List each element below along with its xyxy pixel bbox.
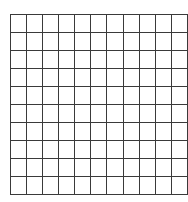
grid-cell[interactable]	[123, 15, 139, 33]
grid-cell[interactable]	[123, 141, 139, 159]
grid-cell[interactable]	[139, 177, 155, 195]
grid-cell[interactable]	[123, 51, 139, 69]
grid-cell[interactable]	[75, 159, 91, 177]
empty-grid[interactable]	[10, 14, 188, 195]
grid-cell[interactable]	[139, 87, 155, 105]
grid-cell[interactable]	[59, 15, 75, 33]
grid-cell[interactable]	[27, 141, 43, 159]
grid-cell[interactable]	[27, 69, 43, 87]
grid-cell[interactable]	[27, 159, 43, 177]
grid-cell[interactable]	[107, 33, 123, 51]
grid-cell[interactable]	[139, 105, 155, 123]
grid-cell[interactable]	[171, 33, 187, 51]
grid-cell[interactable]	[59, 87, 75, 105]
grid-cell[interactable]	[107, 159, 123, 177]
grid-cell[interactable]	[91, 105, 107, 123]
grid-cell[interactable]	[155, 123, 171, 141]
grid-cell[interactable]	[59, 141, 75, 159]
grid-cell[interactable]	[11, 69, 27, 87]
grid-cell[interactable]	[27, 87, 43, 105]
grid-cell[interactable]	[27, 15, 43, 33]
grid-cell[interactable]	[155, 159, 171, 177]
grid-cell[interactable]	[123, 159, 139, 177]
grid-cell[interactable]	[43, 51, 59, 69]
grid-cell[interactable]	[43, 141, 59, 159]
grid-cell[interactable]	[11, 141, 27, 159]
grid-cell[interactable]	[123, 33, 139, 51]
grid-cell[interactable]	[155, 51, 171, 69]
grid-cell[interactable]	[11, 123, 27, 141]
grid-cell[interactable]	[139, 33, 155, 51]
grid-cell[interactable]	[75, 141, 91, 159]
grid-cell[interactable]	[75, 69, 91, 87]
grid-cell[interactable]	[75, 105, 91, 123]
grid-cell[interactable]	[11, 15, 27, 33]
grid-cell[interactable]	[91, 33, 107, 51]
grid-cell[interactable]	[107, 51, 123, 69]
grid-cell[interactable]	[59, 159, 75, 177]
grid-cell[interactable]	[171, 69, 187, 87]
grid-cell[interactable]	[59, 123, 75, 141]
grid-cell[interactable]	[171, 105, 187, 123]
grid-cell[interactable]	[11, 105, 27, 123]
grid-cell[interactable]	[11, 159, 27, 177]
grid-cell[interactable]	[123, 87, 139, 105]
grid-cell[interactable]	[43, 33, 59, 51]
grid-cell[interactable]	[11, 177, 27, 195]
grid-cell[interactable]	[139, 159, 155, 177]
grid-cell[interactable]	[75, 51, 91, 69]
grid-cell[interactable]	[27, 177, 43, 195]
grid-cell[interactable]	[155, 15, 171, 33]
grid-cell[interactable]	[107, 141, 123, 159]
grid-cell[interactable]	[139, 123, 155, 141]
grid-cell[interactable]	[43, 177, 59, 195]
grid-cell[interactable]	[107, 15, 123, 33]
grid-cell[interactable]	[43, 69, 59, 87]
grid-cell[interactable]	[43, 87, 59, 105]
grid-cell[interactable]	[155, 87, 171, 105]
grid-cell[interactable]	[75, 123, 91, 141]
grid-cell[interactable]	[171, 123, 187, 141]
grid-cell[interactable]	[91, 123, 107, 141]
grid-cell[interactable]	[59, 51, 75, 69]
grid-cell[interactable]	[139, 69, 155, 87]
grid-cell[interactable]	[107, 69, 123, 87]
grid-cell[interactable]	[11, 33, 27, 51]
grid-cell[interactable]	[107, 87, 123, 105]
grid-cell[interactable]	[155, 177, 171, 195]
grid-cell[interactable]	[91, 69, 107, 87]
grid-cell[interactable]	[91, 87, 107, 105]
grid-cell[interactable]	[107, 177, 123, 195]
grid-cell[interactable]	[155, 141, 171, 159]
grid-cell[interactable]	[123, 177, 139, 195]
grid-cell[interactable]	[107, 105, 123, 123]
grid-cell[interactable]	[59, 105, 75, 123]
grid-cell[interactable]	[27, 123, 43, 141]
grid-cell[interactable]	[75, 87, 91, 105]
grid-cell[interactable]	[171, 51, 187, 69]
grid-cell[interactable]	[139, 15, 155, 33]
grid-cell[interactable]	[171, 15, 187, 33]
grid-cell[interactable]	[75, 177, 91, 195]
grid-cell[interactable]	[155, 105, 171, 123]
grid-cell[interactable]	[123, 69, 139, 87]
grid-cell[interactable]	[11, 51, 27, 69]
grid-cell[interactable]	[43, 105, 59, 123]
grid-cell[interactable]	[43, 123, 59, 141]
grid-cell[interactable]	[27, 51, 43, 69]
grid-cell[interactable]	[43, 15, 59, 33]
grid-cell[interactable]	[27, 33, 43, 51]
grid-cell[interactable]	[155, 33, 171, 51]
grid-cell[interactable]	[123, 123, 139, 141]
grid-cell[interactable]	[107, 123, 123, 141]
grid-cell[interactable]	[59, 177, 75, 195]
grid-cell[interactable]	[171, 141, 187, 159]
grid-cell[interactable]	[171, 159, 187, 177]
grid-cell[interactable]	[59, 33, 75, 51]
grid-cell[interactable]	[123, 105, 139, 123]
grid-cell[interactable]	[139, 141, 155, 159]
grid-cell[interactable]	[91, 15, 107, 33]
grid-cell[interactable]	[75, 15, 91, 33]
grid-cell[interactable]	[155, 69, 171, 87]
grid-cell[interactable]	[43, 159, 59, 177]
